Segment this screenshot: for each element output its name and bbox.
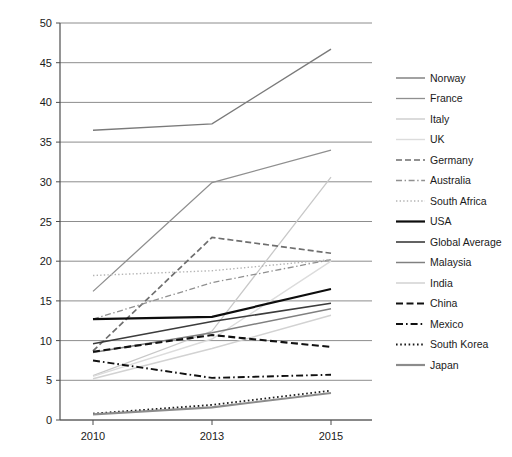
y-axis-tick-label: 35 — [40, 136, 52, 148]
legend-label: South Korea — [430, 338, 489, 350]
legend-label: Germany — [430, 154, 474, 166]
legend-label: Australia — [430, 174, 471, 186]
chart-background — [0, 0, 512, 457]
x-axis-tick-label: 2015 — [319, 430, 343, 442]
y-axis-tick-label: 50 — [40, 17, 52, 29]
legend-label: Mexico — [430, 318, 463, 330]
legend-label: Norway — [430, 72, 466, 84]
legend-label: Malaysia — [430, 256, 472, 268]
legend-label: UK — [430, 133, 445, 145]
x-axis-tick-label: 2010 — [81, 430, 105, 442]
chart-container: 05101520253035404550 201020132015 Norway… — [0, 0, 512, 457]
legend-label: Italy — [430, 113, 450, 125]
legend-label: Japan — [430, 359, 459, 371]
legend-label: China — [430, 297, 458, 309]
y-axis-tick-label: 5 — [46, 374, 52, 386]
x-axis-tick-label: 2013 — [200, 430, 224, 442]
legend-label: India — [430, 277, 453, 289]
y-axis-tick-label: 45 — [40, 57, 52, 69]
y-axis-tick-label: 40 — [40, 96, 52, 108]
y-axis-tick-label: 10 — [40, 335, 52, 347]
legend-label: France — [430, 92, 463, 104]
legend-label: South Africa — [430, 195, 487, 207]
y-axis-tick-label: 30 — [40, 176, 52, 188]
legend-label: USA — [430, 215, 452, 227]
y-axis-tick-label: 0 — [46, 414, 52, 426]
y-axis-tick-label: 15 — [40, 295, 52, 307]
y-axis-tick-label: 25 — [40, 216, 52, 228]
legend-label: Global Average — [430, 236, 502, 248]
line-chart-figure: 05101520253035404550 201020132015 Norway… — [0, 0, 512, 457]
y-axis-tick-label: 20 — [40, 255, 52, 267]
